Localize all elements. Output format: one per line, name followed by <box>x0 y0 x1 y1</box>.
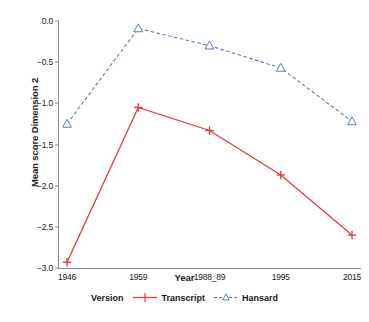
legend-entry-transcript[interactable]: Transcript <box>133 292 205 303</box>
data-point-marker <box>348 117 357 125</box>
x-axis-line <box>58 268 361 269</box>
data-point-marker <box>134 24 143 32</box>
series-transcript <box>63 103 356 266</box>
y-tick-label: −2.5 <box>37 222 53 232</box>
series-layer <box>58 16 361 268</box>
plot-area: 0.0−0.5−1.0−1.5−2.0−2.5−3.0 194619591988… <box>58 16 361 268</box>
series-hansard <box>63 24 357 127</box>
legend-title: Version <box>91 293 124 303</box>
line-chart: Mean score Dimension 2 0.0−0.5−1.0−1.5−2… <box>0 0 369 322</box>
chart-legend: Version Transcript Hansard <box>0 292 369 303</box>
x-axis-title: Year <box>0 272 369 283</box>
hansard-marker-icon <box>214 292 238 303</box>
legend-label-transcript: Transcript <box>161 293 205 303</box>
y-tick-label: 0.0 <box>42 16 53 26</box>
legend-label-hansard: Hansard <box>242 293 278 303</box>
y-tick-label: −1.5 <box>37 140 53 150</box>
data-point-marker <box>276 63 285 71</box>
data-point-marker <box>63 119 72 127</box>
y-tick-label: −2.0 <box>37 181 53 191</box>
y-tick-label: −1.0 <box>37 98 53 108</box>
legend-entry-hansard[interactable]: Hansard <box>214 292 278 303</box>
transcript-marker-icon <box>133 292 157 303</box>
y-tick-label: −0.5 <box>37 57 53 67</box>
